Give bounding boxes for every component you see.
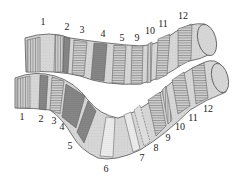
lower-band-label-8: 8 xyxy=(154,143,159,153)
chromosome-illustration xyxy=(0,0,233,183)
lower-band-label-5: 5 xyxy=(68,141,73,151)
lower-band-label-4: 4 xyxy=(60,122,65,132)
upper-band-label-9: 9 xyxy=(135,33,140,43)
upper-band-label-5: 5 xyxy=(120,33,125,43)
upper-band-label-12: 12 xyxy=(178,11,188,21)
lower-band-label-6: 6 xyxy=(104,164,109,174)
upper-band-label-4: 4 xyxy=(101,29,106,39)
lower-band-label-3: 3 xyxy=(52,116,57,126)
upper-band-label-10: 10 xyxy=(145,26,155,36)
lower-band-label-10: 10 xyxy=(175,122,185,132)
lower-band-label-2: 2 xyxy=(39,114,44,124)
lower-band-label-11: 11 xyxy=(188,113,198,123)
lower-band-label-1: 1 xyxy=(20,112,25,122)
upper-band-label-1: 1 xyxy=(41,17,46,27)
lower-band-label-12: 12 xyxy=(203,104,213,114)
lower-band-label-9: 9 xyxy=(166,133,171,143)
upper-band-label-2: 2 xyxy=(65,22,70,32)
lower-band-label-7: 7 xyxy=(140,153,145,163)
chromosome-inversion-figure: 1 2 3 4 5 9 10 11 12 1 2 3 4 5 6 7 8 9 1… xyxy=(0,0,233,183)
upper-band-label-11: 11 xyxy=(158,19,168,29)
upper-band-label-3: 3 xyxy=(80,25,85,35)
